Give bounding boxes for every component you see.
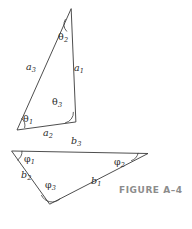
figure-container: a3 a1 a2 θ1 θ2 θ3 b3 b2 b1 φ1 φ2 φ3 FIGU… bbox=[0, 0, 192, 229]
side-a1-label: a1 bbox=[74, 63, 84, 75]
side-a3-label: a3 bbox=[26, 62, 36, 74]
side-b2-label: b2 bbox=[21, 170, 31, 182]
side-a2-label: a2 bbox=[43, 128, 53, 140]
angle-theta2-label: θ2 bbox=[58, 32, 68, 44]
side-b1-label: b1 bbox=[91, 176, 101, 188]
angle-phi1-arc bbox=[18, 151, 22, 160]
angle-theta3-label: θ3 bbox=[52, 97, 62, 109]
angle-phi1-label: φ1 bbox=[24, 154, 35, 166]
side-b3-label: b3 bbox=[71, 136, 81, 148]
angle-phi3-label: φ3 bbox=[45, 180, 56, 192]
angle-theta3-arc bbox=[66, 112, 74, 123]
figure-caption: FIGURE A–4 bbox=[119, 186, 183, 195]
angle-theta1-label: θ1 bbox=[23, 114, 33, 126]
angle-phi2-label: φ2 bbox=[114, 157, 125, 169]
